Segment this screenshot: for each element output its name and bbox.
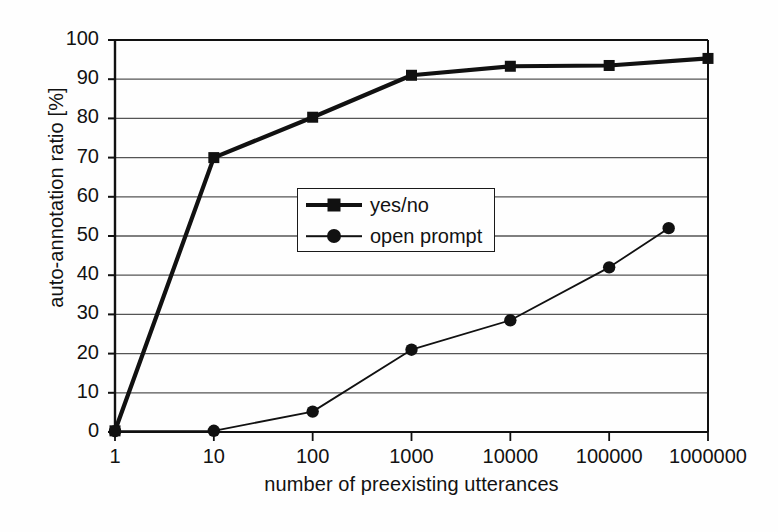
circle-marker-icon [327, 229, 341, 243]
chart-legend: yes/no open prompt [297, 188, 495, 252]
legend-label-open-prompt: open prompt [370, 225, 482, 248]
y-tick-label: 40 [39, 262, 99, 285]
y-tick-label: 10 [39, 380, 99, 403]
y-tick-label: 0 [39, 419, 99, 442]
y-tick-label: 30 [39, 301, 99, 324]
x-axis-title: number of preexisting utterances [115, 473, 708, 496]
chart-figure: auto-annotation ratio [%] number of pree… [0, 0, 778, 532]
square-marker-icon [328, 199, 341, 212]
legend-key-open-prompt [298, 220, 370, 252]
y-tick-label: 90 [39, 66, 99, 89]
legend-item-open-prompt: open prompt [298, 220, 494, 252]
y-tick-label: 100 [39, 27, 99, 50]
legend-label-yes-no: yes/no [370, 194, 429, 217]
y-tick-label: 20 [39, 341, 99, 364]
y-tick-label: 70 [39, 145, 99, 168]
y-tick-label: 50 [39, 223, 99, 246]
x-tick-label: 1000000 [643, 445, 773, 468]
legend-item-yes-no: yes/no [298, 189, 494, 221]
y-tick-label: 60 [39, 184, 99, 207]
legend-key-yes-no [298, 189, 370, 221]
y-tick-label: 80 [39, 105, 99, 128]
